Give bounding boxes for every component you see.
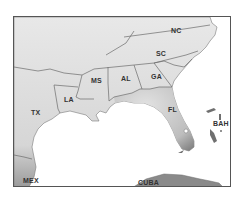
label-la: LA [64,96,74,103]
label-nc: NC [171,27,182,34]
florida-peninsula [114,87,194,151]
label-bah: BAH [213,120,229,127]
label-mex: MEX [23,177,39,184]
label-ms: MS [91,77,102,84]
label-sc: SC [156,50,166,57]
map-canvas [14,17,231,187]
label-al: AL [121,75,131,82]
lake-okeechobee [184,129,188,133]
label-fl: FL [168,106,177,113]
map-frame: NC SC GA AL MS LA TX FL BAH MEX CUBA [13,16,231,187]
label-ga: GA [151,73,162,80]
label-cuba: CUBA [138,179,159,186]
label-tx: TX [31,109,40,116]
